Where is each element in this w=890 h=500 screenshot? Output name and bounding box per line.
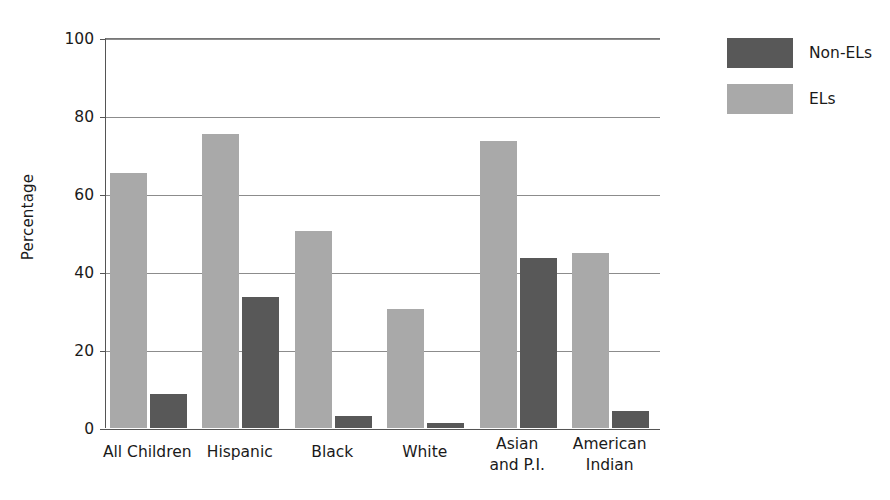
x-tick-label-line1: Asian <box>471 434 564 455</box>
bar-american-indian-non-els <box>612 411 649 428</box>
y-axis-title: Percentage <box>19 137 37 297</box>
bar-hispanic-els <box>202 134 239 428</box>
legend-swatch-els <box>727 84 793 114</box>
bar-hispanic-non-els <box>242 297 279 428</box>
bar-chart-figure: Percentage 020406080100 All ChildrenHisp… <box>0 0 890 500</box>
x-tick-label-white: White <box>379 442 472 463</box>
legend-label-els: ELs <box>809 90 836 108</box>
bar-black-els <box>295 231 332 428</box>
x-tick-label-line2: Indian <box>564 455 657 476</box>
y-tick-label-100: 100 <box>64 30 94 48</box>
legend-item-els: ELs <box>727 76 872 122</box>
bar-black-non-els <box>335 416 372 428</box>
y-tick-label-20: 20 <box>74 342 94 360</box>
y-tick-mark-60 <box>100 195 106 196</box>
y-tick-mark-80 <box>100 117 106 118</box>
y-tick-label-40: 40 <box>74 264 94 282</box>
x-tick-label-asian: Asianand P.I. <box>471 434 564 476</box>
x-tick-label-line2: and P.I. <box>471 455 564 476</box>
y-tick-label-60: 60 <box>74 186 94 204</box>
legend-swatch-non-els <box>727 38 793 68</box>
x-tick-label-all-children: All Children <box>101 442 194 463</box>
bar-american-indian-els <box>572 253 609 428</box>
y-tick-mark-0 <box>100 429 106 430</box>
bar-white-els <box>387 309 424 428</box>
legend-label-non-els: Non-ELs <box>809 44 872 62</box>
x-tick-label-black: Black <box>286 442 379 463</box>
plot-inner: 020406080100 <box>106 39 660 428</box>
x-tick-label-line1: Hispanic <box>194 442 287 463</box>
chart-legend: Non-ELs ELs <box>727 30 872 122</box>
x-tick-label-line1: American <box>564 434 657 455</box>
y-tick-label-0: 0 <box>84 420 94 438</box>
plot-area: 020406080100 <box>105 38 660 428</box>
gridline-100 <box>106 39 660 40</box>
y-tick-mark-40 <box>100 273 106 274</box>
x-tick-label-hispanic: Hispanic <box>194 442 287 463</box>
x-tick-label-american: AmericanIndian <box>564 434 657 476</box>
y-tick-mark-100 <box>100 39 106 40</box>
bar-white-non-els <box>427 423 464 428</box>
x-tick-label-line1: White <box>379 442 472 463</box>
legend-item-non-els: Non-ELs <box>727 30 872 76</box>
bar-asian-and-p-i--els <box>480 141 517 428</box>
gridline-80 <box>106 117 660 118</box>
bar-all-children-non-els <box>150 394 187 428</box>
gridline-60 <box>106 195 660 196</box>
x-tick-label-line1: Black <box>286 442 379 463</box>
y-tick-label-80: 80 <box>74 108 94 126</box>
bar-all-children-els <box>110 173 147 428</box>
y-tick-mark-20 <box>100 351 106 352</box>
x-tick-label-line1: All Children <box>101 442 194 463</box>
bar-asian-and-p-i--non-els <box>520 258 557 428</box>
gridline-0 <box>106 429 660 430</box>
